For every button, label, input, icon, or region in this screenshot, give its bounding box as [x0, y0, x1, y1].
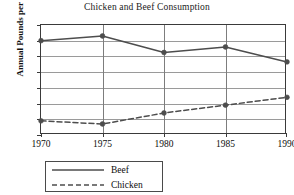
legend-item-chicken[interactable]: Chicken [46, 178, 164, 193]
legend-swatch-chicken [50, 179, 106, 191]
y-axis-tick-mark [37, 72, 41, 73]
gridline-vertical [226, 25, 227, 133]
legend-label-beef: Beef [111, 165, 129, 175]
gridline-horizontal [41, 72, 285, 73]
chart-container: Chicken and Beef Consumption Annual Poun… [0, 0, 294, 195]
x-axis-tick-mark [41, 133, 42, 137]
x-axis-tick-mark [164, 133, 165, 137]
plot-area: 2030405060708090 19701975198019851990 [40, 24, 286, 134]
gridline-vertical [164, 25, 165, 133]
y-axis-tick-mark [37, 88, 41, 89]
chart-title: Chicken and Beef Consumption [0, 2, 294, 12]
y-axis-tick-mark [37, 41, 41, 42]
y-axis-tick-mark [37, 119, 41, 120]
legend-label-chicken: Chicken [111, 180, 143, 190]
gridline-horizontal [41, 88, 285, 89]
y-axis-tick-mark [37, 25, 41, 26]
legend-item-beef[interactable]: Beef [46, 163, 164, 178]
x-axis-tick-mark [286, 133, 287, 137]
chart-legend: BeefChicken [45, 161, 163, 192]
x-axis-tick-label: 1990 [267, 139, 294, 149]
gridline-horizontal [41, 119, 285, 120]
gridline-horizontal [41, 56, 285, 57]
legend-swatch-beef [50, 164, 106, 176]
x-axis-tick-mark [226, 133, 227, 137]
y-axis-tick-mark [37, 104, 41, 105]
x-axis-tick-label: 1975 [83, 139, 123, 149]
x-axis-tick-mark [103, 133, 104, 137]
gridline-horizontal [41, 104, 285, 105]
gridline-vertical [103, 25, 104, 133]
x-axis-tick-label: 1985 [206, 139, 246, 149]
plot-inner: 2030405060708090 19701975198019851990 [41, 25, 285, 133]
x-axis-tick-label: 1980 [144, 139, 184, 149]
data-point-beef-1990 [285, 60, 290, 65]
y-axis-title: Annual Pounds per Person [15, 0, 29, 89]
x-axis-tick-label: 1970 [21, 139, 61, 149]
y-axis-tick-mark [37, 56, 41, 57]
gridline-horizontal [41, 41, 285, 42]
data-point-chicken-1990 [285, 95, 290, 100]
